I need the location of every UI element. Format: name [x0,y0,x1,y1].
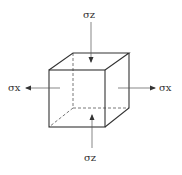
cube-diagram [0,0,182,175]
label-top-sigma-z: σz [83,10,95,20]
hidden-edges [49,53,129,127]
stress-arrows [26,22,155,148]
visible-edges [49,53,129,127]
label-right-sigma-x: σx [159,83,171,93]
label-bottom-sigma-z: σz [84,153,96,163]
label-left-sigma-x: σx [8,83,20,93]
